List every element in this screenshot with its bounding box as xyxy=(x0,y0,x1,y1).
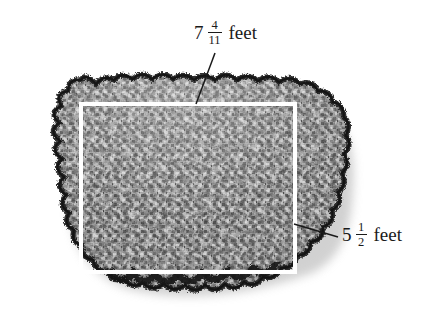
width-whole-number: 5 xyxy=(342,225,352,244)
rock-texture xyxy=(0,0,431,315)
length-label: 7 4 11 feet xyxy=(194,19,257,47)
rock-illustration xyxy=(0,0,431,315)
width-label: 5 1 2 feet xyxy=(342,221,402,249)
width-fraction: 1 2 xyxy=(356,221,367,249)
width-unit: feet xyxy=(374,225,402,244)
length-unit: feet xyxy=(229,23,257,42)
length-numerator: 4 xyxy=(210,19,218,32)
width-denominator: 2 xyxy=(357,236,365,249)
length-denominator: 11 xyxy=(208,34,222,47)
length-whole-number: 7 xyxy=(194,23,204,42)
rock-area-figure: 7 4 11 feet 5 1 2 feet xyxy=(0,0,431,315)
width-numerator: 1 xyxy=(357,221,365,234)
length-fraction: 4 11 xyxy=(208,19,222,47)
